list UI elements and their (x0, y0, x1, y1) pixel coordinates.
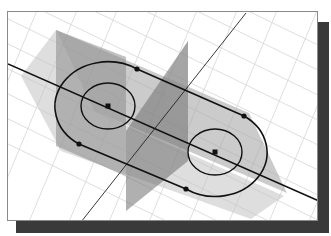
tangent-point-bottom-right[interactable] (183, 186, 188, 191)
scene-canvas[interactable] (8, 12, 318, 221)
tangent-point-top-left[interactable] (134, 66, 139, 71)
cad-viewport[interactable] (7, 11, 318, 221)
right-circle-center-point[interactable] (213, 150, 218, 155)
vertical-plane-left[interactable] (56, 30, 126, 176)
tangent-point-bottom-left[interactable] (76, 141, 81, 146)
left-circle-center-point[interactable] (106, 104, 111, 109)
tangent-point-top-right[interactable] (241, 113, 246, 118)
